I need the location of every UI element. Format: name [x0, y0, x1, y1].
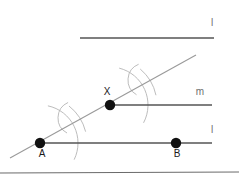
arc-at-a-cross-1	[69, 106, 86, 132]
label-point-x: X	[104, 86, 111, 97]
line-labels-group: l m l	[196, 17, 213, 135]
points-group	[35, 100, 181, 148]
label-point-b: B	[174, 148, 181, 159]
point-labels-group: ABX	[39, 86, 181, 159]
label-line-m: m	[196, 86, 204, 97]
point-x	[105, 100, 115, 110]
lines-group	[0, 38, 239, 173]
bottom-border	[0, 172, 239, 173]
point-b	[171, 138, 181, 148]
point-a	[35, 138, 45, 148]
geometry-canvas: l m l ABX	[0, 0, 239, 185]
construction-arcs	[48, 64, 156, 159]
arc-at-a-large	[48, 106, 78, 160]
label-point-a: A	[39, 148, 46, 159]
label-line-top: l	[211, 17, 213, 28]
geometry-figure: l m l ABX	[0, 0, 239, 185]
label-line-l: l	[211, 124, 213, 135]
